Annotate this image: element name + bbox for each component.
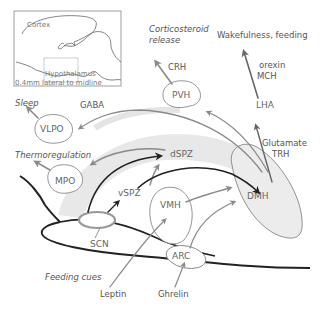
vmh-label: VMH: [160, 200, 181, 210]
ghrelin-to-arc-arrow: [175, 264, 184, 287]
corticosteroid-label-line1: Corticosteroid: [149, 24, 209, 34]
hypothalamus-label: Hypothalamus: [45, 70, 96, 78]
scn-nucleus: [79, 212, 115, 228]
orexin-label: orexin: [259, 60, 285, 70]
mpo-to-thermoregulation-arrow: [36, 162, 50, 170]
corticosteroid-label-line2: release: [149, 35, 180, 45]
wakefulness-label: Wakefulness, feeding: [217, 30, 308, 40]
feeding-cues-label: Feeding cues: [45, 272, 102, 282]
leptin-label: Leptin: [100, 289, 126, 299]
scn-to-vspz-arrow: [108, 202, 118, 212]
lha-to-wakefulness-arrow: [244, 52, 258, 98]
mpo-label: MPO: [55, 176, 75, 186]
vlpo-label: VLPO: [40, 124, 64, 134]
pvh-label: PVH: [172, 90, 190, 100]
crh-label: CRH: [168, 62, 186, 72]
trh-label: TRH: [271, 149, 290, 159]
vlpo-to-sleep-arrow: [28, 108, 38, 118]
cortex-label: Cortex: [27, 21, 50, 29]
scn-label: SCN: [90, 239, 109, 249]
brain-inset: Cortex Hypothalamus 0.4mm lateral to mid…: [14, 11, 121, 87]
section-caption: 0.4mm lateral to midline: [15, 79, 102, 87]
vmh-nucleus: [150, 187, 192, 244]
thermoregulation-label: Thermoregulation: [15, 150, 91, 160]
arc-to-dmh-arrow: [190, 202, 234, 248]
lha-label: LHA: [256, 100, 275, 110]
dspz-label: dSPZ: [170, 149, 193, 159]
ghrelin-label: Ghrelin: [158, 289, 189, 299]
arc-label: ARC: [172, 251, 190, 261]
sleep-label: Sleep: [15, 98, 39, 108]
vspz-label: vSPZ: [118, 188, 141, 198]
vmh-to-dmh-arrow: [186, 188, 230, 202]
hypothalamus-circuit-diagram: Cortex Hypothalamus 0.4mm lateral to mid…: [0, 0, 326, 314]
gaba-label: GABA: [80, 100, 104, 110]
mch-label: MCH: [257, 71, 277, 81]
glutamate-label: Glutamate: [262, 138, 307, 148]
